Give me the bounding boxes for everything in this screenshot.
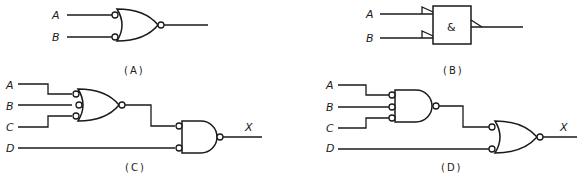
inverter-bubble-a (112, 12, 118, 18)
input-label-a: A (51, 9, 60, 22)
input-label-b: B (52, 31, 60, 44)
logic-diagrams: A B (A) A B & (B) A B C D (0, 0, 582, 185)
caption-a: (A) (124, 65, 145, 76)
output-label-x: X (559, 121, 568, 134)
input-label-a: A (5, 79, 14, 92)
input-label-a: A (365, 8, 374, 21)
wire-a (338, 85, 389, 95)
polarity-indicator-b (422, 31, 433, 38)
input-label-c: C (326, 122, 334, 135)
inverter-bubble-1 (176, 123, 182, 129)
diagram-a: A B (A) (51, 9, 208, 76)
caption-d: (D) (441, 162, 463, 173)
wire-intermediate (125, 105, 175, 126)
inverter-bubble-a (389, 92, 395, 98)
output-bubble (158, 22, 164, 28)
diagram-b: A B & (B) (365, 6, 523, 76)
and-gate-1 (395, 90, 432, 122)
caption-c: (C) (125, 162, 146, 173)
inverter-bubble-c (73, 113, 79, 119)
inverter-bubble-b (76, 102, 82, 108)
or-gate-2 (495, 121, 537, 153)
diagram-d: A B C D X (D) (325, 79, 577, 173)
wire-intermediate (439, 106, 489, 127)
output-bubble-2 (217, 134, 223, 140)
inverter-bubble-1 (489, 124, 495, 130)
wire-c (338, 118, 389, 128)
output-label-x: X (244, 121, 253, 134)
polarity-indicator-a (422, 7, 433, 14)
inverter-bubble-c (389, 115, 395, 121)
output-bubble-2 (537, 134, 543, 140)
wire-a (18, 84, 72, 94)
inverter-bubble-d (489, 146, 495, 152)
polarity-indicator-output (471, 20, 482, 27)
inverter-bubble-b (389, 104, 395, 110)
output-bubble-1 (119, 102, 125, 108)
inverter-bubble-d (176, 145, 182, 151)
input-label-b: B (366, 32, 374, 45)
inverter-bubble-a (73, 91, 79, 97)
input-label-b: B (6, 100, 14, 113)
caption-b: (B) (443, 65, 464, 76)
wire-c (18, 116, 72, 127)
input-label-c: C (6, 121, 14, 134)
inverter-bubble-b (112, 34, 118, 40)
input-label-d: D (6, 142, 14, 155)
input-label-d: D (326, 142, 334, 155)
and-symbol: & (447, 21, 456, 34)
input-label-a: A (325, 79, 334, 92)
output-bubble-1 (433, 103, 439, 109)
or-gate-1 (78, 89, 119, 121)
and-gate-2 (182, 121, 217, 153)
input-label-b: B (326, 101, 334, 114)
diagram-c: A B C D X (C) (5, 79, 262, 173)
or-gate-a (117, 9, 158, 41)
